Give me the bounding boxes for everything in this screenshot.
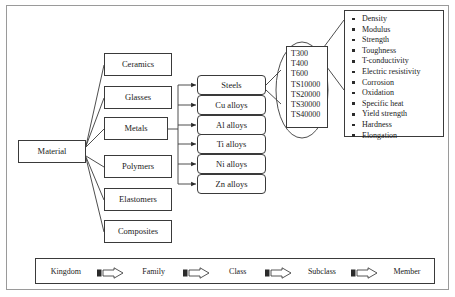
diagram-frame xyxy=(6,5,449,290)
diagram-canvas: Material Ceramics Glasses Metals Polymer… xyxy=(0,0,455,297)
